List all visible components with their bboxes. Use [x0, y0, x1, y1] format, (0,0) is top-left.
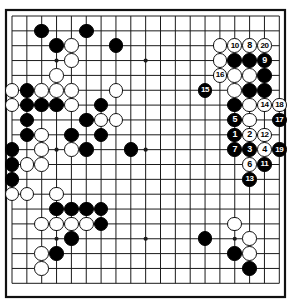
stone-white-move-16[interactable]: 16	[213, 68, 228, 83]
stone-white[interactable]	[109, 83, 124, 98]
stone-black[interactable]	[79, 113, 94, 128]
stone-black[interactable]	[64, 231, 79, 246]
stone-black[interactable]	[257, 68, 272, 83]
stone-white[interactable]	[64, 83, 79, 98]
stone-black[interactable]	[34, 24, 49, 39]
stone-black-move-17[interactable]: 17	[272, 113, 287, 128]
move-number-label: 2	[247, 130, 252, 139]
stone-white[interactable]	[213, 38, 228, 53]
stone-white-move-20[interactable]: 20	[257, 38, 272, 53]
stone-black-move-13[interactable]: 13	[242, 172, 257, 187]
stone-black[interactable]	[79, 142, 94, 157]
stone-black[interactable]	[49, 246, 64, 261]
stone-white[interactable]	[34, 157, 49, 172]
stone-white[interactable]	[213, 53, 228, 68]
stone-black[interactable]	[227, 53, 242, 68]
stone-black-move-15[interactable]: 15	[198, 83, 213, 98]
stone-white-move-2[interactable]: 2	[242, 128, 257, 143]
stone-white[interactable]	[34, 261, 49, 276]
stone-black-move-5[interactable]: 5	[227, 113, 242, 128]
stone-white[interactable]	[34, 217, 49, 232]
stone-black-move-11[interactable]: 11	[257, 157, 272, 172]
stone-white-move-12[interactable]: 12	[257, 128, 272, 143]
stone-white[interactable]	[64, 142, 79, 157]
move-number-label: 5	[232, 115, 237, 124]
move-number-label: 15	[201, 86, 209, 94]
move-number-label: 11	[261, 160, 269, 168]
stone-white[interactable]	[227, 217, 242, 232]
stone-black[interactable]	[79, 24, 94, 39]
stone-white-move-10[interactable]: 10	[227, 38, 242, 53]
stone-white[interactable]	[227, 68, 242, 83]
stone-black-move-19[interactable]: 19	[272, 142, 287, 157]
stone-white[interactable]	[242, 98, 257, 113]
move-number-label: 9	[262, 56, 267, 65]
move-number-label: 8	[247, 41, 252, 50]
move-number-label: 14	[260, 101, 268, 109]
stone-white[interactable]	[20, 157, 35, 172]
stone-black-move-3[interactable]: 3	[242, 142, 257, 157]
move-number-label: 20	[260, 42, 268, 50]
stone-black[interactable]	[64, 202, 79, 217]
stone-white[interactable]	[79, 217, 94, 232]
move-number-label: 17	[275, 116, 283, 124]
stone-white-move-6[interactable]: 6	[242, 157, 257, 172]
stone-white[interactable]	[49, 83, 64, 98]
stone-white[interactable]	[34, 142, 49, 157]
move-number-label: 12	[260, 131, 268, 139]
go-board[interactable]: 1082091615141851712127341961113	[0, 0, 292, 307]
go-diagram-root: 1082091615141851712127341961113	[0, 0, 292, 307]
stone-black[interactable]	[49, 202, 64, 217]
star-point	[144, 148, 148, 152]
stone-black[interactable]	[5, 157, 20, 172]
move-number-label: 4	[262, 145, 267, 154]
stone-white[interactable]	[49, 217, 64, 232]
stone-black-move-7[interactable]: 7	[227, 142, 242, 157]
stone-white-move-14[interactable]: 14	[257, 98, 272, 113]
move-number-label: 7	[232, 145, 237, 154]
star-point	[233, 237, 237, 241]
stone-black[interactable]	[5, 142, 20, 157]
stone-white-move-4[interactable]: 4	[257, 142, 272, 157]
stone-white-move-8[interactable]: 8	[242, 38, 257, 53]
stone-black[interactable]	[49, 38, 64, 53]
move-number-label: 19	[275, 146, 283, 154]
stone-white[interactable]	[242, 113, 257, 128]
stone-black[interactable]	[49, 98, 64, 113]
stone-black[interactable]	[79, 202, 94, 217]
stone-white[interactable]	[227, 83, 242, 98]
stone-black[interactable]	[5, 172, 20, 187]
stone-black[interactable]	[20, 83, 35, 98]
stone-black-move-9[interactable]: 9	[257, 53, 272, 68]
move-number-label: 16	[216, 71, 224, 79]
stone-white[interactable]	[64, 98, 79, 113]
stone-black[interactable]	[20, 128, 35, 143]
stone-black[interactable]	[257, 83, 272, 98]
star-point	[54, 148, 58, 152]
stone-black[interactable]	[227, 246, 242, 261]
move-number-label: 1	[232, 130, 237, 139]
stone-white[interactable]	[5, 83, 20, 98]
stone-black-move-1[interactable]: 1	[227, 128, 242, 143]
stone-black[interactable]	[242, 83, 257, 98]
stone-white[interactable]	[242, 246, 257, 261]
stone-black[interactable]	[64, 128, 79, 143]
move-number-label: 18	[275, 101, 283, 109]
stone-white[interactable]	[49, 68, 64, 83]
star-point	[144, 237, 148, 241]
stone-white[interactable]	[242, 231, 257, 246]
stone-black[interactable]	[124, 142, 139, 157]
stone-white[interactable]	[64, 38, 79, 53]
stone-white[interactable]	[34, 246, 49, 261]
stone-black[interactable]	[109, 38, 124, 53]
stone-white[interactable]	[34, 83, 49, 98]
stone-white[interactable]	[34, 128, 49, 143]
star-point	[54, 58, 58, 62]
stone-white[interactable]	[64, 217, 79, 232]
star-point	[144, 58, 148, 62]
stone-white[interactable]	[242, 68, 257, 83]
stone-black[interactable]	[242, 261, 257, 276]
stone-black[interactable]	[242, 53, 257, 68]
stone-white[interactable]	[64, 53, 79, 68]
stone-white-move-18[interactable]: 18	[272, 98, 287, 113]
